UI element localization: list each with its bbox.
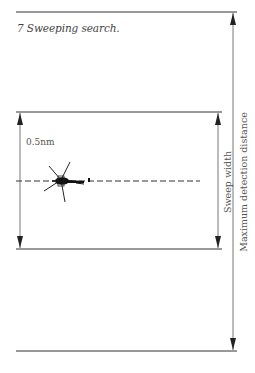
helicopter-icon	[44, 162, 90, 202]
distance-label: 0.5nm	[26, 137, 55, 147]
diagram-canvas	[0, 0, 255, 373]
sweep-width-arrow	[215, 113, 221, 248]
max-detection-label: Maximum detection distance	[238, 112, 249, 252]
figure-caption: 7 Sweeping search.	[17, 22, 120, 34]
sweep-width-label: Sweep width	[222, 151, 233, 213]
sweeping-search-diagram: 7 Sweeping search. 0.5nm Sweep width Max…	[0, 0, 255, 373]
